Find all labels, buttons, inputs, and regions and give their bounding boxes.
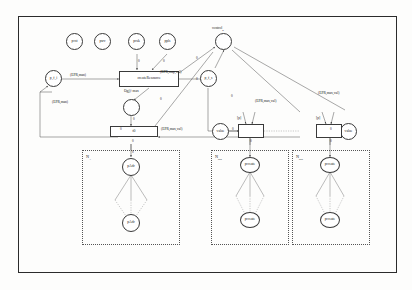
arc-label-epr-man-top: (EPR,man) bbox=[70, 74, 86, 78]
arc-label-epr-map-cval: (EPR,map,val) bbox=[160, 71, 181, 75]
arc-weight-7: 0 bbox=[160, 98, 162, 101]
place-subnet-b-bottom[interactable]: pcreate bbox=[240, 212, 260, 228]
place-label: pAdr bbox=[127, 165, 134, 169]
transition-far-right[interactable] bbox=[316, 124, 342, 138]
arc-label-epr-max-val-mid: (EPR,max,val) bbox=[161, 128, 182, 132]
subnet-na-sub: A bbox=[89, 158, 91, 161]
arc-label-p-right: [p] bbox=[316, 117, 320, 121]
place-p-f-s[interactable]: p_f_s bbox=[200, 70, 217, 87]
place-value-right[interactable]: value bbox=[340, 123, 357, 140]
place-pcsk[interactable]: pcsk bbox=[128, 33, 145, 50]
diagram-canvas: pcst psrv pcsk ppls controln p_f_i p_f_s… bbox=[0, 0, 412, 290]
place-mid-circle[interactable] bbox=[123, 99, 140, 116]
place-subnet-a-bottom[interactable]: pAdr bbox=[122, 214, 140, 232]
place-label: pcreate bbox=[245, 163, 255, 167]
transition-label: t0 bbox=[133, 130, 136, 134]
place-label: value bbox=[217, 130, 225, 134]
place-label: pcreate bbox=[245, 218, 255, 222]
subnet-nsub1-label: Nsub bbox=[215, 155, 222, 162]
arc-weight-2: 0 bbox=[163, 60, 165, 63]
arc-label-epr-man-left: (EPR,man) bbox=[52, 101, 68, 105]
control-text: control bbox=[212, 26, 222, 30]
place-label: value bbox=[345, 130, 353, 134]
place-label: ppls bbox=[165, 40, 171, 44]
subnet-na-label: NA bbox=[86, 155, 91, 162]
arc-weight-1: 0 bbox=[138, 60, 140, 63]
subnet-nsub1-sub: sub bbox=[218, 158, 222, 161]
arc-weight-14: 0 bbox=[132, 151, 134, 154]
control-sub: n bbox=[222, 29, 223, 32]
place-control[interactable] bbox=[215, 33, 232, 50]
place-subnet-c-bottom[interactable]: pcreate bbox=[320, 212, 340, 228]
place-subnet-c-top[interactable]: pcreate bbox=[320, 157, 340, 173]
arc-weight-4: 0 bbox=[133, 118, 135, 121]
transition-lower-main[interactable]: t0 bbox=[110, 126, 158, 137]
subnet-nsub2-label: Nsub bbox=[296, 155, 303, 162]
place-label: pcreate bbox=[325, 218, 335, 222]
place-pcst[interactable]: pcst bbox=[66, 33, 83, 50]
arc-weight-6: 0 bbox=[132, 140, 134, 143]
place-label: pAdr bbox=[127, 221, 134, 225]
place-label: pcst bbox=[72, 40, 78, 44]
arc-weight-3: 0 bbox=[196, 57, 198, 60]
place-subnet-b-top[interactable]: pcreate bbox=[240, 157, 260, 173]
arc-label-obj-res: Ogj)+max bbox=[124, 90, 139, 94]
place-psrv[interactable]: psrv bbox=[94, 33, 111, 50]
place-p-f-i[interactable]: p_f_i bbox=[45, 70, 62, 87]
arc-label-p-mid: [p] bbox=[237, 117, 241, 121]
arc-weight-9: 0 bbox=[232, 128, 234, 131]
arc-weight-12: 0 bbox=[330, 140, 332, 143]
arc-label-epr-max-val-far: (EPR,max,val) bbox=[318, 92, 339, 96]
place-control-label: controln bbox=[212, 27, 224, 33]
arc-weight-10: 0 bbox=[250, 140, 252, 143]
place-label: pcreate bbox=[325, 163, 335, 167]
place-label: p_f_s bbox=[205, 77, 213, 81]
subnet-nsub2-sub: sub bbox=[299, 158, 303, 161]
place-ppls[interactable]: ppls bbox=[159, 33, 176, 50]
place-subnet-a-top[interactable]: pAdr bbox=[122, 158, 140, 176]
transition-mid-right[interactable] bbox=[238, 124, 264, 138]
arc-weight-8: 0 bbox=[231, 95, 233, 98]
connector-layer bbox=[0, 0, 412, 290]
place-label: psrv bbox=[99, 40, 105, 44]
place-value-left[interactable]: value bbox=[212, 123, 229, 140]
arc-weight-5: 0 bbox=[120, 128, 122, 131]
arc-weight-13: 0 bbox=[196, 78, 198, 81]
place-label: pcsk bbox=[133, 40, 140, 44]
arc-weight-11: 0 bbox=[330, 128, 332, 131]
place-label: p_f_i bbox=[50, 77, 58, 81]
transition-label: createResource bbox=[137, 77, 160, 81]
arc-label-epr-max-val-right: (EPR,max,val) bbox=[255, 100, 276, 104]
